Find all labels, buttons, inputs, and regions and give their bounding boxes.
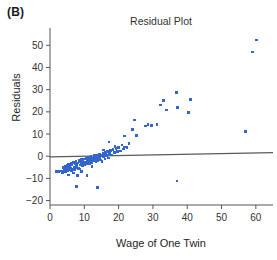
data-points-layer [55, 39, 258, 189]
svg-text:−20: −20 [26, 195, 43, 206]
scatter-plot-canvas: −20−10010203040500102030405060 [0, 0, 277, 260]
svg-text:40: 40 [182, 212, 194, 223]
svg-text:30: 30 [32, 84, 44, 95]
svg-text:20: 20 [32, 106, 44, 117]
svg-text:50: 50 [216, 212, 228, 223]
x-axis-title: Wage of One Twin [50, 238, 272, 249]
svg-text:−10: −10 [26, 173, 43, 184]
y-axis-title: Residuals [11, 58, 22, 138]
svg-text:30: 30 [147, 212, 159, 223]
zero-reference-line [50, 153, 273, 157]
svg-text:60: 60 [250, 212, 262, 223]
svg-text:10: 10 [32, 129, 44, 140]
svg-text:40: 40 [32, 62, 44, 73]
svg-text:10: 10 [79, 212, 91, 223]
svg-text:50: 50 [32, 40, 44, 51]
axis-layer: −20−10010203040500102030405060 [26, 28, 273, 223]
residual-plot-figure: (B) Residual Plot −20−100102030405001020… [0, 0, 277, 260]
svg-text:0: 0 [37, 151, 43, 162]
svg-text:0: 0 [47, 212, 53, 223]
svg-text:20: 20 [113, 212, 125, 223]
